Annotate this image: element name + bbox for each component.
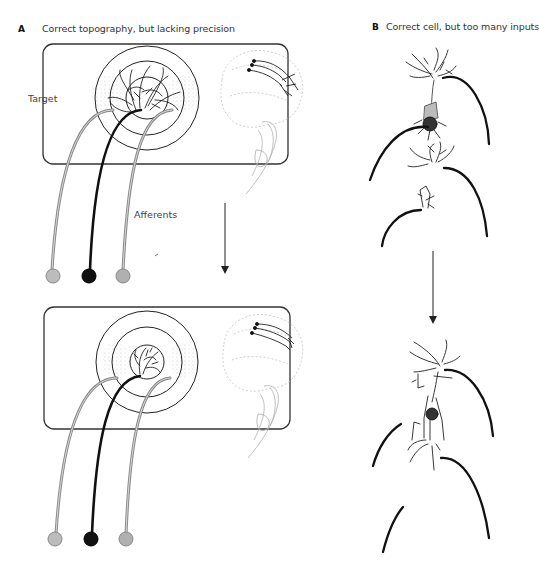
- arrow-down-icon-b: [429, 251, 437, 324]
- target-cell-bottom: [408, 340, 460, 470]
- input-axons-top: [370, 77, 489, 246]
